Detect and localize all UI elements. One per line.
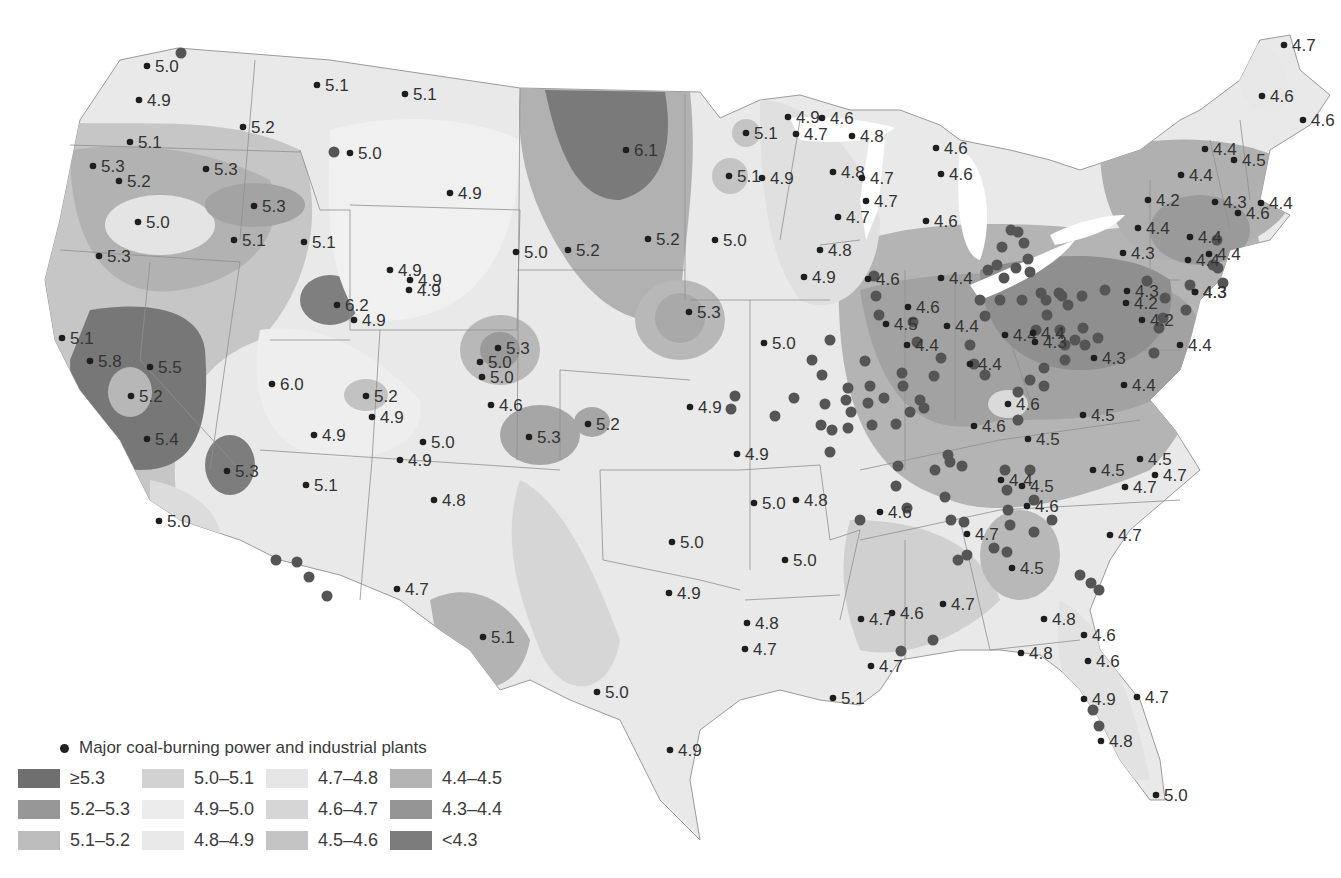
coal-plant-dot: [322, 591, 333, 602]
station-dot: [667, 747, 674, 754]
coal-plant-dot: [1005, 520, 1016, 531]
coal-plant-dot: [1185, 280, 1196, 291]
station-ph-label: 4.7: [846, 208, 870, 227]
coal-plant-dot: [897, 368, 908, 379]
station-ph-label: 5.5: [158, 358, 182, 377]
station-dot: [940, 601, 947, 608]
station-ph-label: 4.9: [408, 451, 432, 470]
station-dot: [479, 374, 486, 381]
coal-plant-dot: [1023, 254, 1034, 265]
legend-classes: ≥5.35.0–5.14.7–4.84.4–4.55.2–5.34.9–5.04…: [18, 767, 618, 851]
legend-plants-entry: Major coal-burning power and industrial …: [60, 735, 618, 761]
station-dot: [830, 169, 837, 176]
station-dot: [156, 518, 163, 525]
coal-plant-dot: [928, 635, 939, 646]
coal-plant-dot: [1181, 305, 1192, 316]
station-ph-label: 5.1: [242, 231, 266, 250]
station-ph-label: 4.4: [915, 336, 939, 355]
station-dot: [964, 531, 971, 538]
station-dot: [495, 345, 502, 352]
station-dot: [1212, 199, 1219, 206]
plant-dot-icon: [60, 744, 69, 753]
station-dot: [1019, 483, 1026, 490]
station-ph-label: 4.6: [900, 604, 924, 623]
station-ph-label: 4.8: [755, 614, 779, 633]
station-ph-label: 4.9: [677, 584, 701, 603]
coal-plant-dot: [891, 481, 902, 492]
station-ph-label: 4.9: [458, 184, 482, 203]
coal-plant-dot: [1013, 227, 1024, 238]
station-dot: [59, 335, 66, 342]
station-ph-label: 4.9: [362, 311, 386, 330]
station-dot: [877, 509, 884, 516]
legend-class-label: 4.4–4.5: [442, 768, 502, 789]
station-ph-label: 5.3: [262, 197, 286, 216]
station-dot: [1005, 401, 1012, 408]
coal-plant-dot: [1060, 355, 1071, 366]
station-ph-label: 5.0: [167, 512, 191, 531]
coal-plant-dot: [1100, 285, 1111, 296]
station-dot: [394, 586, 401, 593]
station-dot: [793, 131, 800, 138]
coal-plant-dot: [304, 572, 315, 583]
legend-swatch: [266, 769, 308, 788]
coal-plant-dot: [726, 404, 737, 415]
station-dot: [96, 253, 103, 260]
station-ph-label: 4.9: [745, 445, 769, 464]
station-dot: [269, 381, 276, 388]
station-dot: [488, 402, 495, 409]
station-dot: [687, 404, 694, 411]
station-ph-label: 4.6: [1035, 497, 1059, 516]
coal-plant-dot: [1078, 323, 1089, 334]
station-dot: [585, 421, 592, 428]
station-dot: [868, 663, 875, 670]
station-ph-label: 4.8: [828, 241, 852, 260]
station-ph-label: 4.5: [1101, 461, 1125, 480]
station-ph-label: 4.8: [1029, 644, 1053, 663]
coal-plant-dot: [855, 515, 866, 526]
station-ph-label: 5.1: [314, 476, 338, 495]
station-dot: [135, 219, 142, 226]
station-ph-label: 5.0: [490, 368, 514, 387]
legend-class-label: 4.9–5.0: [194, 799, 254, 820]
station-ph-label: 4.3: [1203, 283, 1227, 302]
station-dot: [1122, 484, 1129, 491]
station-dot: [1235, 210, 1242, 217]
coal-plant-dot: [1063, 300, 1074, 311]
station-dot: [971, 423, 978, 430]
station-ph-label: 4.7: [874, 192, 898, 211]
station-dot: [751, 500, 758, 507]
station-ph-label: 4.5: [1020, 559, 1044, 578]
coal-plant-dot: [843, 383, 854, 394]
station-dot: [938, 171, 945, 178]
coal-plant-dot: [999, 273, 1010, 284]
station-ph-label: 4.7: [870, 169, 894, 188]
coal-plant-dot: [989, 543, 1000, 554]
station-dot: [793, 497, 800, 504]
legend-swatch: [18, 831, 60, 850]
station-dot: [967, 361, 974, 368]
station-ph-label: 4.7: [804, 125, 828, 144]
station-ph-label: 4.3: [1043, 333, 1067, 352]
station-dot: [251, 203, 258, 210]
station-dot: [1041, 616, 1048, 623]
station-ph-label: 5.2: [139, 387, 163, 406]
station-dot: [128, 393, 135, 400]
station-dot: [865, 276, 872, 283]
legend-class: <4.3: [390, 829, 514, 851]
coal-plant-dot: [1094, 585, 1105, 596]
station-dot: [761, 340, 768, 347]
station-dot: [224, 468, 231, 475]
coal-plant-dot: [1017, 295, 1028, 306]
station-dot: [923, 218, 930, 225]
legend-swatch: [142, 769, 184, 788]
station-dot: [785, 114, 792, 121]
coal-plant-dot: [946, 515, 957, 526]
station-dot: [406, 287, 413, 294]
station-ph-label: 4.8: [860, 127, 884, 146]
coal-plant-dot: [271, 555, 282, 566]
coal-plant-dot: [1070, 335, 1081, 346]
legend-swatch: [18, 800, 60, 819]
coal-plant-dot: [896, 646, 907, 657]
coal-plant-dot: [940, 492, 951, 503]
